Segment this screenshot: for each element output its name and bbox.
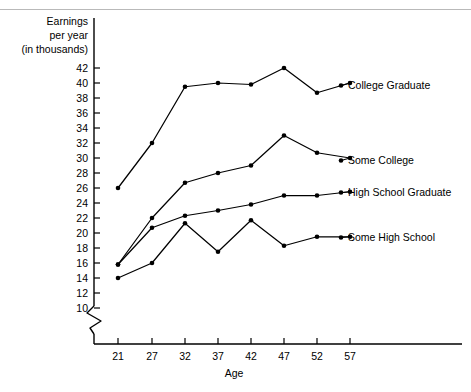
y-axis-title-line: (in thousands)	[21, 43, 88, 55]
y-axis-tick-label: 40	[76, 77, 88, 89]
data-point	[216, 249, 221, 254]
data-point	[183, 213, 188, 218]
series-label-college-graduate: College Graduate	[348, 79, 430, 91]
y-axis-title-line: per year	[49, 29, 88, 41]
y-axis-tick-label: 20	[76, 227, 88, 239]
series-label-some-college: Some College	[348, 154, 414, 166]
series-line-some-college	[118, 136, 350, 265]
data-point	[150, 261, 155, 266]
data-point	[315, 193, 320, 198]
series-label-anchor-dot	[339, 83, 344, 88]
y-axis-tick-label: 28	[76, 167, 88, 179]
y-axis-tick-label: 32	[76, 137, 88, 149]
data-point	[216, 81, 221, 86]
data-point	[315, 150, 320, 155]
data-point	[150, 216, 155, 221]
data-point	[150, 141, 155, 146]
series-label-high-school-graduate: High School Graduate	[348, 186, 451, 198]
y-axis-tick-label: 10	[76, 302, 88, 314]
data-point	[116, 186, 121, 191]
data-point	[216, 171, 221, 176]
y-axis-tick-label: 16	[76, 257, 88, 269]
data-point	[282, 66, 287, 71]
data-point	[282, 243, 287, 248]
data-point	[183, 84, 188, 89]
x-axis-tick-label: 21	[112, 350, 124, 362]
series-label-some-high-school: Some High School	[348, 231, 435, 243]
x-axis-tick-label: 52	[311, 350, 323, 362]
data-point	[315, 234, 320, 239]
data-point	[249, 218, 254, 223]
y-axis-title-line: Earnings	[47, 15, 88, 27]
data-point	[282, 133, 287, 138]
data-point	[116, 262, 121, 267]
y-axis-tick-label: 12	[76, 287, 88, 299]
data-point	[116, 276, 121, 281]
y-axis-tick-label: 22	[76, 212, 88, 224]
y-axis-tick-label: 24	[76, 197, 88, 209]
series-label-anchor-dot	[339, 158, 344, 163]
y-axis-tick-label: 18	[76, 242, 88, 254]
data-point	[315, 90, 320, 95]
x-axis-tick-label: 37	[212, 350, 224, 362]
data-point	[216, 208, 221, 213]
x-axis-tick-label: 27	[146, 350, 158, 362]
axis-break-mark	[87, 306, 101, 334]
chart-canvas: 4240383634323028262422201816141210212732…	[0, 0, 471, 392]
x-axis-tick-label: 42	[245, 350, 257, 362]
y-axis-tick-label: 36	[76, 107, 88, 119]
y-axis-tick-label: 26	[76, 182, 88, 194]
data-point	[282, 193, 287, 198]
data-point	[150, 225, 155, 230]
data-point	[183, 221, 188, 226]
data-point	[249, 202, 254, 207]
y-axis-tick-label: 34	[76, 122, 88, 134]
x-axis-tick-label: 47	[278, 350, 290, 362]
series-label-anchor-dot	[339, 235, 344, 240]
data-point	[249, 163, 254, 168]
y-axis-tick-label: 38	[76, 92, 88, 104]
line-chart: 4240383634323028262422201816141210212732…	[0, 0, 471, 392]
series-label-anchor-dot	[339, 190, 344, 195]
y-axis-tick-label: 30	[76, 152, 88, 164]
y-axis-tick-label: 14	[76, 272, 88, 284]
x-axis-tick-label: 57	[344, 350, 356, 362]
x-axis-tick-label: 32	[179, 350, 191, 362]
y-axis-tick-label: 42	[76, 62, 88, 74]
data-point	[183, 180, 188, 185]
data-point	[249, 82, 254, 87]
x-axis-title: Age	[225, 367, 244, 379]
